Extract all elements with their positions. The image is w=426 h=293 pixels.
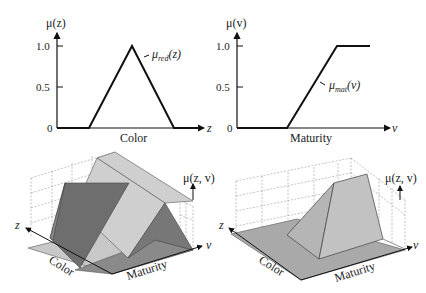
tick-1: 1.0	[36, 40, 50, 52]
panel-3d-maturity: z v μ(z, v) Color Maturity	[218, 158, 419, 285]
tick-1: 1.0	[216, 40, 230, 52]
z-axis-label: z	[218, 218, 224, 232]
x-axis-label: Color	[120, 131, 147, 145]
x-axis-var: v	[392, 121, 398, 135]
x-axis-var: z	[206, 121, 212, 135]
panel-3d-red: z v μ(z, v) Color Maturity	[14, 152, 215, 283]
x-axis-label: Maturity	[290, 131, 332, 145]
v-axis-label: v	[206, 238, 212, 252]
mu-label: μ(z, v)	[385, 171, 417, 185]
panel-maturity-membership: μ(v) 1.0 0.5 0 v Maturity μmat(v)	[216, 16, 398, 145]
curve-label-maturity: μmat(v)	[328, 78, 360, 94]
v-axis-label: v	[413, 238, 419, 252]
tick-0: 0	[227, 122, 233, 134]
curve-label-red: μred(z)	[151, 47, 181, 63]
y-axis-label: μ(v)	[226, 16, 246, 30]
mu-label: μ(z, v)	[183, 171, 215, 185]
tick-05: 0.5	[216, 81, 230, 93]
y-axis-label: μ(z)	[46, 16, 66, 30]
tick-05: 0.5	[36, 81, 50, 93]
figure: μ(z) 1.0 0.5 0 z Color μred(z) μ(v) 1.0 …	[0, 0, 426, 293]
panel-red-membership: μ(z) 1.0 0.5 0 z Color μred(z)	[36, 16, 212, 145]
z-axis-label: z	[14, 218, 20, 232]
tick-0: 0	[47, 122, 53, 134]
